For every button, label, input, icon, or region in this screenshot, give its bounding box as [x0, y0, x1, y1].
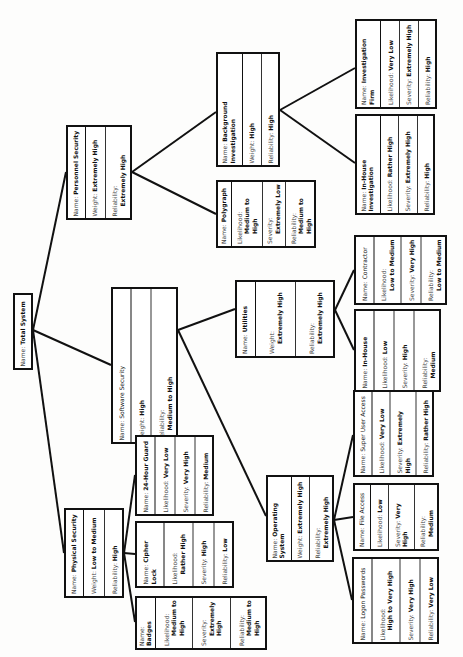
severity-label: Severity: — [395, 447, 402, 473]
severity-label: Severity: — [181, 486, 188, 512]
name-label: Name: — [358, 527, 365, 547]
node-personnel-security: Name: Personnel Security Weight: Extreme… — [66, 125, 132, 220]
likelihood-value: Very Low — [377, 408, 384, 439]
likelihood-value: Very Low — [161, 447, 168, 478]
weight-value: Low to Medium — [90, 518, 97, 570]
reliability-value: Rather High — [421, 400, 428, 441]
name-label: Name: — [220, 224, 227, 244]
name-label: Name: — [221, 143, 228, 163]
node-name: In-House — [360, 336, 367, 366]
name-label: Name: — [72, 196, 79, 216]
severity-label: Severity: — [400, 362, 407, 388]
reliability-label: Reliability: — [426, 609, 433, 640]
reliability-label: Reliability: — [308, 284, 316, 354]
severity-label: Severity: — [394, 521, 401, 547]
likelihood-label: Likelihood: — [379, 239, 387, 301]
reliability-label: Reliability: — [157, 291, 165, 440]
name-label: Name: — [141, 492, 148, 512]
likelihood-value: Low to Medium — [387, 239, 395, 301]
security-tree-diagram: Name: Total System Name: Personnel Secur… — [0, 0, 463, 657]
reliability-value: Low — [220, 538, 227, 552]
name-label: Name: — [358, 620, 365, 640]
reliability-label: Reliability: — [111, 563, 118, 594]
node-contractor: Name: Contractor Likelihood:Low to Mediu… — [354, 235, 447, 305]
node-badges: Name: Badges Likelihood:Medium to High S… — [135, 596, 267, 650]
name-label: Name: — [271, 538, 278, 558]
node-name: Polygraph — [220, 188, 227, 222]
node-name: File Access — [358, 493, 365, 526]
reliability-label: Reliability: — [290, 184, 298, 244]
reliability-label: Reliability: — [111, 129, 119, 216]
reliability-value: Medium to High — [165, 291, 173, 440]
reliability-label: Reliability: — [420, 313, 428, 388]
likelihood-label: Likelihood: — [387, 73, 394, 105]
likelihood-label: Likelihood: — [376, 515, 383, 547]
reliability-label: Reliability: — [267, 132, 274, 163]
node-utilities: Name: Utilities Weight:Extremely High Re… — [235, 280, 335, 358]
reliability-value: High — [267, 115, 274, 131]
node-24-hour-guard: Name: 24-Hour Guard Likelihood: Very Low… — [135, 435, 214, 516]
severity-label: Severity: — [199, 558, 206, 584]
name-label: Name: — [19, 346, 26, 366]
weight-value: High — [137, 399, 144, 415]
reliability-label: Reliability: — [424, 74, 431, 105]
node-in-house-investigation: Name: In-House Investigation Likelihood:… — [355, 114, 435, 215]
node-cipher-lock: Name: Cipher Lock Likelihood:Rather High… — [135, 521, 234, 588]
severity-label: Severity: — [266, 184, 274, 244]
likelihood-label: Likelihood: — [170, 525, 178, 584]
node-polygraph: Name: Polygraph Likelihood:Medium to Hig… — [216, 180, 316, 248]
name-label: Name: — [241, 334, 248, 354]
name-label: Name: — [360, 85, 367, 105]
severity-value: Very High — [181, 451, 188, 484]
severity-label: Severity: — [200, 600, 208, 646]
name-label: Name: — [360, 281, 367, 301]
name-label: Name: — [358, 453, 365, 473]
likelihood-label: Likelihood: — [386, 179, 393, 211]
reliability-value: Extremely High — [316, 284, 324, 354]
likelihood-value: Low — [376, 499, 383, 513]
severity-label: Severity: — [405, 79, 412, 105]
reliability-value: High — [424, 57, 431, 73]
weight-label: Weight: — [268, 284, 276, 354]
severity-value: Very High — [407, 240, 414, 273]
node-software-security: Name: Software Security Weight: High Rel… — [111, 287, 178, 444]
likelihood-value: High to Very High — [385, 561, 393, 640]
node-physical-security: Name: Physical Security Weight: Low to M… — [64, 508, 124, 598]
node-name: Badges — [145, 621, 152, 646]
node-name: Physical Security — [70, 514, 77, 572]
node-investigation-firm: Name: Investigation Firm Likelihood: Ver… — [355, 19, 437, 109]
reliability-value: Extremely High — [119, 129, 127, 216]
name-label: Name: — [141, 564, 148, 584]
weight-value: High — [248, 122, 255, 138]
reliability-value: Medium to High — [297, 184, 312, 244]
likelihood-value: Rather High — [178, 525, 186, 584]
node-super-user-access: Name: Super User Access Likelihood: Very… — [353, 390, 434, 477]
node-name: 24-Hour Guard — [141, 441, 148, 491]
name-label: Name: — [70, 574, 77, 594]
node-logon-passwords: Name: Logon Passwords Likelihood:High to… — [352, 557, 439, 644]
reliability-label: Reliability: — [238, 600, 246, 646]
name-label: Name: — [117, 420, 124, 440]
reliability-value: High — [111, 546, 118, 562]
severity-value: High — [199, 540, 206, 556]
node-name: Utilities — [241, 306, 248, 332]
likelihood-label: Likelihood: — [378, 561, 386, 640]
node-file-access: Name: File Access Likelihood: Low Severi… — [353, 483, 439, 551]
weight-label: Weight: — [90, 571, 97, 594]
reliability-label: Reliability: — [419, 487, 427, 547]
likelihood-value: Rather High — [386, 136, 393, 177]
node-name: Contractor — [360, 247, 367, 279]
node-name: Super User Access — [358, 396, 365, 452]
reliability-label: Reliability: — [426, 239, 434, 301]
severity-value: High — [400, 344, 407, 360]
likelihood-label: Likelihood: — [163, 600, 171, 646]
weight-label: Weight: — [296, 535, 303, 558]
reliability-label: Reliability: — [421, 442, 428, 473]
node-total-system: Name: Total System — [13, 293, 33, 370]
reliability-value: Medium — [427, 487, 435, 547]
name-label: Name: — [360, 368, 367, 388]
likelihood-label: Likelihood: — [161, 480, 168, 512]
node-name: Personnel Security — [72, 130, 79, 194]
reliability-value: High — [423, 163, 430, 179]
node-background-investigation: Name: Background Investigation Weight: H… — [216, 52, 280, 167]
